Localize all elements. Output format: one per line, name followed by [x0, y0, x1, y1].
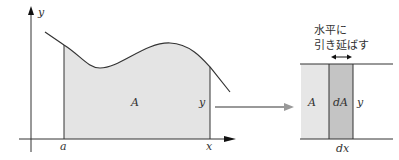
transform-arrow-icon	[284, 103, 294, 111]
y-axis-arrow-icon	[28, 6, 34, 15]
integral-area-diagram: y a x A y 水平に 引き延ばす A dA y dx	[0, 0, 399, 160]
upper-bound-label: x	[206, 140, 213, 153]
area-under-curve	[64, 43, 210, 139]
stretch-arrow-left-icon	[331, 55, 336, 60]
rect-height-label: y	[356, 96, 364, 109]
annotation-line1: 水平に	[314, 24, 347, 37]
y-axis-label: y	[37, 6, 45, 19]
lower-bound-label: a	[60, 140, 67, 153]
stretch-arrow-right-icon	[347, 55, 352, 60]
strip-width-label: dx	[336, 142, 350, 155]
rect-area-label: A	[307, 96, 316, 109]
annotation-line2: 引き延ばす	[314, 38, 369, 52]
height-label: y	[198, 96, 206, 109]
x-axis-arrow-icon	[224, 136, 236, 142]
strip-label: dA	[333, 96, 348, 109]
area-label: A	[130, 96, 139, 109]
